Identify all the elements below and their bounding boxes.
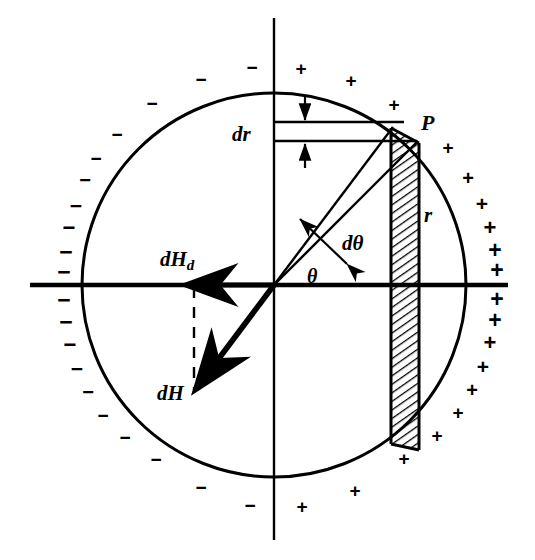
positive-pole-sign: + — [349, 481, 360, 500]
label-dH-d-main: dH — [160, 247, 187, 271]
positive-pole-sign: + — [466, 380, 478, 400]
negative-pole-sign: − — [244, 496, 255, 515]
negative-pole-sign: − — [97, 406, 108, 425]
label-dr: dr — [232, 124, 251, 145]
positive-pole-sign: + — [442, 138, 453, 157]
positive-pole-sign: + — [490, 259, 503, 282]
negative-pole-sign: − — [82, 382, 94, 402]
strip-hatch-fill — [391, 128, 419, 450]
negative-pole-sign: − — [59, 311, 72, 334]
diagram-canvas — [0, 0, 535, 560]
label-dH-d: dHd — [160, 249, 194, 273]
negative-pole-sign: − — [195, 70, 206, 89]
label-dH-d-subscript: d — [187, 257, 195, 273]
label-theta: θ — [307, 266, 317, 286]
negative-pole-sign: − — [70, 195, 82, 216]
positive-pole-sign: + — [296, 497, 307, 516]
label-d-theta: dθ — [342, 233, 363, 254]
positive-pole-sign: + — [477, 356, 489, 377]
negative-pole-sign: − — [195, 478, 206, 497]
radius-line-inner — [274, 127, 393, 285]
positive-pole-sign: + — [398, 449, 409, 468]
positive-pole-sign: + — [431, 426, 442, 445]
dH-vector — [196, 285, 274, 389]
negative-pole-sign: − — [111, 125, 122, 144]
negative-pole-sign: − — [246, 58, 257, 77]
negative-pole-sign: − — [63, 217, 76, 239]
negative-pole-sign: − — [64, 334, 77, 356]
positive-pole-sign: + — [388, 95, 399, 114]
negative-pole-sign: − — [57, 261, 70, 284]
negative-pole-sign: − — [79, 170, 91, 190]
positive-pole-sign: + — [476, 193, 488, 214]
positive-pole-sign: + — [488, 309, 501, 332]
positive-pole-sign: + — [462, 168, 474, 188]
demagnetizing-field-diagram: dr P r dθ θ dHd dH +++++++++++++++++++−−… — [0, 0, 535, 560]
negative-pole-sign: − — [119, 428, 130, 447]
positive-pole-sign: + — [484, 332, 497, 354]
label-point-p: P — [421, 112, 434, 134]
negative-pole-sign: − — [146, 94, 157, 113]
label-radius: r — [424, 205, 432, 226]
negative-pole-sign: − — [150, 450, 161, 469]
positive-pole-sign: + — [452, 403, 463, 422]
positive-pole-sign: + — [295, 59, 306, 78]
negative-pole-sign: − — [90, 149, 101, 168]
negative-pole-sign: − — [71, 358, 83, 379]
label-dH: dH — [157, 383, 184, 404]
positive-pole-sign: + — [345, 71, 356, 90]
